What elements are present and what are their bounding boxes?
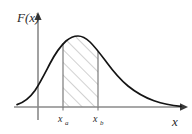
figure-container: F(x) x x a x b: [0, 0, 192, 134]
tick-label-xb-main: x: [92, 113, 98, 124]
shaded-region: [60, 30, 102, 110]
tick-label-xa: x a: [57, 113, 69, 127]
tick-label-xa-sub: a: [65, 119, 69, 127]
tick-label-xb-sub: b: [100, 119, 104, 127]
tick-label-xb: x b: [92, 113, 104, 127]
tick-label-xa-main: x: [57, 113, 63, 124]
density-curve: [17, 36, 181, 106]
x-axis-label: x: [171, 114, 178, 129]
hatch-fill: [60, 30, 102, 110]
y-axis-label: F(x): [16, 10, 39, 25]
distribution-curve-figure: F(x) x x a x b: [0, 0, 192, 134]
